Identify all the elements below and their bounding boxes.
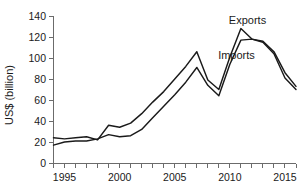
x-tick-label-group: 19952000200520102015 [53,171,297,183]
series-line-imports [54,39,297,145]
y-axis-group: 020406080100120140 US$ (billion) [3,10,54,169]
y-tick-label: 60 [34,94,46,106]
series-annotation-imports: Imports [218,49,255,61]
series-annotation-exports: Exports [229,14,267,26]
y-tick-label: 100 [28,52,46,64]
x-tick-group [54,164,297,169]
y-tick-label: 80 [34,73,46,85]
x-tick-label: 2000 [108,171,132,183]
chart-container: 020406080100120140 US$ (billion) 1995200… [0,0,306,194]
y-tick-label: 120 [28,31,46,43]
x-tick-label: 2015 [273,171,297,183]
series-annotation-group: ExportsImports [218,14,267,61]
y-tick-group [49,16,54,163]
x-axis-group: 19952000200520102015 [53,164,297,184]
series-group [54,29,297,146]
y-axis-title: US$ (billion) [3,65,15,125]
y-tick-label: 40 [34,115,46,127]
y-tick-label: 140 [28,10,46,22]
line-chart: 020406080100120140 US$ (billion) 1995200… [0,0,306,194]
x-tick-label: 1995 [53,171,77,183]
y-tick-label: 20 [34,136,46,148]
x-tick-label: 2010 [218,171,242,183]
y-tick-label: 0 [40,157,46,169]
series-line-exports [54,29,297,140]
x-tick-label: 2005 [163,171,187,183]
y-tick-label-group: 020406080100120140 [28,10,46,169]
